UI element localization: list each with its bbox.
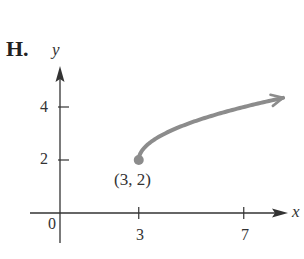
function-curve <box>139 98 283 160</box>
x-tick-label-7: 7 <box>241 226 249 244</box>
y-tick-label-4: 4 <box>40 98 48 116</box>
start-point-label: (3, 2) <box>114 170 151 190</box>
y-tick-label-2: 2 <box>40 150 48 168</box>
axis-ticks <box>58 107 244 219</box>
origin-label: 0 <box>48 215 56 233</box>
y-axis-label: y <box>52 40 60 60</box>
x-axis-label: x <box>292 202 300 222</box>
start-point-marker <box>134 155 144 165</box>
function-graph <box>0 0 304 259</box>
x-tick-label-3: 3 <box>136 226 144 244</box>
panel-label: H. <box>6 36 29 62</box>
